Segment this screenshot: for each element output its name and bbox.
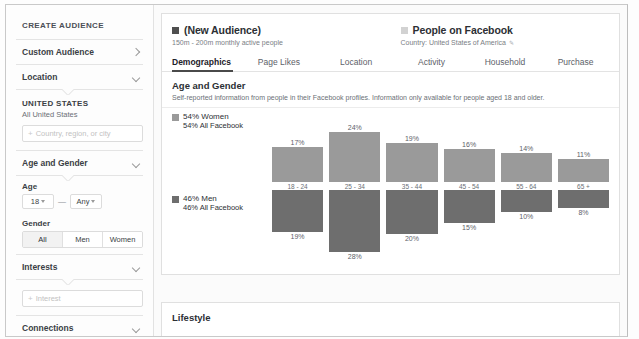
women-bar-value: 24% [329, 123, 380, 132]
legend-men-sublabel: 46% All Facebook [172, 203, 272, 212]
legend-women-row: 54% Women [172, 112, 272, 121]
tab-location[interactable]: Location [317, 54, 395, 71]
section-title: Age and Gender [162, 72, 619, 91]
accordion-notch [62, 279, 74, 285]
sidebar-item-label: Custom Audience [22, 47, 94, 57]
location-section: UNITED STATES All United States + Countr… [6, 90, 153, 142]
women-bar[interactable] [329, 132, 380, 182]
sidebar-item-location[interactable]: Location [6, 65, 153, 89]
men-bar[interactable] [444, 190, 495, 223]
legend-men-row: 46% Men [172, 194, 272, 203]
men-bar[interactable] [558, 190, 609, 208]
age-gender-section: Age 18 — Any Gender All Men Women [6, 176, 153, 248]
gender-option-men[interactable]: Men [63, 232, 103, 247]
women-bar[interactable] [558, 159, 609, 182]
location-input[interactable]: + Country, region, or city [22, 125, 143, 142]
interest-input[interactable]: + Interest [22, 290, 143, 307]
sidebar-item-custom-audience[interactable]: Custom Audience [6, 40, 153, 64]
age-min-value: 18 [31, 197, 39, 206]
legend-men: 46% Men 46% All Facebook [172, 194, 272, 212]
women-bar-group: 24% [329, 114, 380, 182]
legend-men-label: 46% Men [183, 194, 217, 203]
comparison-subtitle: Country: United States of America ✎ [401, 36, 610, 46]
gender-option-women[interactable]: Women [103, 232, 142, 247]
men-bar[interactable] [329, 190, 380, 252]
women-bar-group: 19% [386, 114, 437, 182]
demographics-card: (New Audience) 150m - 200m monthly activ… [161, 13, 620, 275]
interests-section: + Interest [6, 280, 153, 307]
chart-columns: 17%18 - 2419%24%25 - 3428%19%35 - 4420%1… [272, 114, 609, 266]
legend-women: 54% Women 54% All Facebook [172, 112, 272, 130]
men-bar-value: 19% [272, 232, 323, 241]
sidebar-item-age-and-gender[interactable]: Age and Gender [6, 151, 153, 175]
chevron-right-icon [132, 48, 141, 57]
sidebar-item-interests[interactable]: Interests [6, 255, 153, 279]
accordion-notch [62, 89, 74, 95]
women-bar-value: 11% [558, 150, 609, 159]
chevron-down-icon [132, 324, 141, 333]
women-bar[interactable] [444, 149, 495, 182]
interest-input-placeholder: Interest [36, 294, 61, 303]
section-description: Self-reported information from people in… [162, 91, 619, 107]
app-window: CREATE AUDIENCE Custom Audience Location… [0, 0, 639, 339]
tab-purchase[interactable]: Purchase [542, 54, 609, 71]
women-bar-group: 17% [272, 114, 323, 182]
sidebar-item-connections[interactable]: Connections [6, 316, 153, 337]
sidebar-item-label: Interests [22, 262, 57, 272]
chart-column: 19%35 - 4420% [386, 114, 437, 266]
men-bar[interactable] [386, 190, 437, 234]
legend-women-swatch [172, 114, 179, 121]
men-bar-group: 28% [329, 190, 380, 266]
men-bar-group: 15% [444, 190, 495, 266]
men-bar[interactable] [272, 190, 323, 232]
chevron-down-icon [132, 159, 141, 168]
sidebar-item-label: Age and Gender [22, 158, 88, 168]
tab-page-likes[interactable]: Page Likes [241, 54, 317, 71]
men-bar-group: 10% [501, 190, 552, 266]
age-bucket-label: 65 + [558, 182, 609, 190]
tab-demographics[interactable]: Demographics [172, 54, 241, 71]
age-min-select[interactable]: 18 [22, 194, 54, 209]
location-input-placeholder: Country, region, or city [36, 129, 111, 138]
accordion-notch [62, 175, 74, 181]
women-bar-group: 11% [558, 114, 609, 182]
legend-women-label: 54% Women [183, 112, 229, 121]
location-country-subtext: All United States [22, 110, 143, 125]
men-bar[interactable] [501, 190, 552, 212]
legend-men-swatch [172, 196, 179, 203]
women-bar-value: 17% [272, 138, 323, 147]
plus-icon: + [28, 129, 33, 138]
tab-activity[interactable]: Activity [395, 54, 468, 71]
pencil-icon[interactable]: ✎ [509, 39, 514, 46]
chart-column: 17%18 - 2419% [272, 114, 323, 266]
age-range-controls: 18 — Any [22, 194, 143, 213]
comparison-summary: People on Facebook Country: United State… [381, 24, 610, 46]
comparison-title-row: People on Facebook [401, 24, 610, 36]
women-bar[interactable] [272, 147, 323, 182]
sidebar-title: CREATE AUDIENCE [6, 5, 153, 39]
women-bar[interactable] [501, 153, 552, 182]
chart-column: 11%65 +8% [558, 114, 609, 266]
tab-bar: Demographics Page Likes Location Activit… [162, 54, 619, 72]
lifestyle-title: Lifestyle [162, 303, 619, 323]
women-bar-value: 19% [386, 134, 437, 143]
chevron-down-icon [132, 73, 141, 82]
gender-option-all[interactable]: All [23, 232, 63, 247]
legend-women-sublabel: 54% All Facebook [172, 121, 272, 130]
women-bar[interactable] [386, 143, 437, 182]
audience-color-swatch [172, 27, 179, 34]
lifestyle-card: Lifestyle [161, 302, 620, 337]
chart-column: 14%55 - 6410% [501, 114, 552, 266]
men-bar-value: 20% [386, 234, 437, 243]
card-header: (New Audience) 150m - 200m monthly activ… [162, 14, 619, 46]
audience-summary: (New Audience) 150m - 200m monthly activ… [172, 24, 381, 46]
age-max-select[interactable]: Any [70, 194, 102, 209]
audience-title-row: (New Audience) [172, 24, 381, 36]
age-gender-chart: 54% Women 54% All Facebook 46% Men 46% A… [162, 108, 619, 274]
plus-icon: + [28, 294, 33, 303]
tab-household[interactable]: Household [468, 54, 542, 71]
main-content: (New Audience) 150m - 200m monthly activ… [154, 5, 627, 336]
chevron-down-icon [41, 200, 45, 203]
women-bar-value: 16% [444, 140, 495, 149]
age-label: Age [22, 176, 143, 194]
